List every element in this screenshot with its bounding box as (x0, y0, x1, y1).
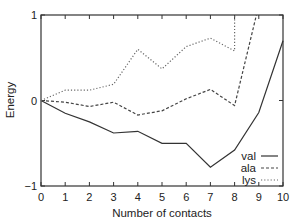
legend-label-val: val (241, 150, 256, 162)
x-tick-label: 5 (159, 191, 165, 203)
legend-label-lys: lys (242, 174, 256, 186)
y-tick-label: 1 (31, 9, 37, 21)
series-layer (41, 15, 283, 167)
x-tick-label: 7 (207, 191, 213, 203)
y-axis-label: Energy (4, 82, 16, 119)
y-tick-label: −1 (24, 180, 37, 192)
x-tick-label: 3 (111, 191, 117, 203)
x-tick-label: 1 (62, 191, 68, 203)
x-tick-label: 6 (183, 191, 189, 203)
x-tick-label: 0 (38, 191, 44, 203)
x-tick-label: 2 (86, 191, 92, 203)
x-tick-label: 10 (277, 191, 289, 203)
x-tick-label: 8 (232, 191, 238, 203)
x-tick-label: 9 (256, 191, 262, 203)
series-line-lys (41, 15, 235, 101)
x-axis-label: Number of contacts (112, 207, 212, 219)
line-chart: 012345678910 −101 Number of contacts Ene… (0, 0, 302, 223)
x-tick-label: 4 (135, 191, 141, 203)
y-tick-label: 0 (31, 95, 37, 107)
legend-label-ala: ala (241, 162, 257, 174)
series-line-ala (41, 15, 256, 115)
legend: valalalys (241, 150, 278, 186)
